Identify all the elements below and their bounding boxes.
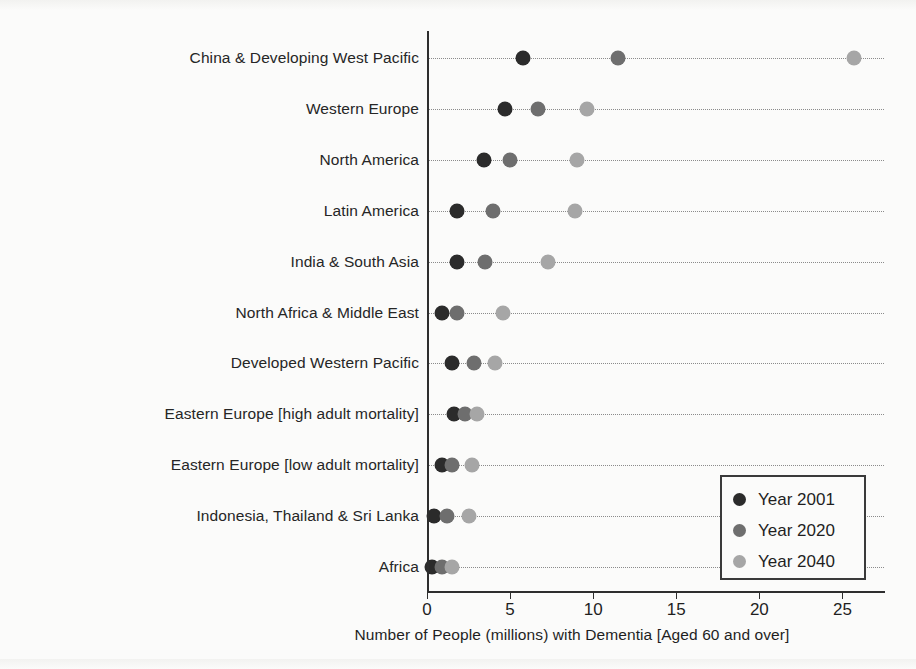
x-axis-tick-label: 20 [750,600,769,620]
x-axis-tick-label: 0 [422,600,431,620]
y-axis-tick-label: Africa [379,558,419,576]
data-point [496,305,511,320]
y-axis-tick-label: Developed Western Pacific [231,354,419,372]
data-point [449,203,464,218]
x-axis-title: Number of People (millions) with Dementi… [0,626,916,644]
data-point [464,457,479,472]
gridline [427,414,884,415]
gridline [427,109,884,110]
legend-item[interactable]: Year 2020 [722,515,864,546]
y-axis-tick-label: Eastern Europe [low adult mortality] [171,456,419,474]
data-point [461,508,476,523]
data-point [488,356,503,371]
data-point [434,305,449,320]
legend-label: Year 2040 [758,552,835,572]
legend-marker-icon [733,555,746,568]
y-axis-tick-label: Latin America [324,202,419,220]
data-point [449,254,464,269]
data-point [567,203,582,218]
data-point [444,457,459,472]
y-axis-tick-label: Indonesia, Thailand & Sri Lanka [196,507,419,525]
legend-marker-icon [733,493,746,506]
data-point [516,51,531,66]
data-point [579,102,594,117]
x-axis-tick [676,592,677,599]
x-axis-tick [593,592,594,599]
data-point [439,508,454,523]
y-axis-tick-label: China & Developing West Pacific [190,49,419,67]
y-axis-labels: China & Developing West PacificWestern E… [0,0,427,669]
y-axis-tick-label: Western Europe [306,100,419,118]
gridline [427,160,884,161]
x-axis-tick-label: 25 [833,600,852,620]
data-point [569,153,584,168]
y-axis-tick-label: India & South Asia [291,253,419,271]
y-axis-tick-label: North America [320,151,420,169]
gridline [427,465,884,466]
data-point [541,254,556,269]
data-point [503,153,518,168]
data-point [469,407,484,422]
y-axis-spine [427,31,429,593]
chart-figure: China & Developing West PacificWestern E… [0,0,916,669]
data-point [486,203,501,218]
legend: Year 2001Year 2020Year 2040 [720,475,866,580]
legend-item[interactable]: Year 2040 [722,546,864,577]
x-axis-tick [510,592,511,599]
data-point [611,51,626,66]
data-point [478,254,493,269]
x-axis-tick [759,592,760,599]
y-axis-tick-label: Eastern Europe [high adult mortality] [165,405,419,423]
x-axis-tick-label: 10 [584,600,603,620]
x-axis-tick [842,592,843,599]
legend-label: Year 2001 [758,490,835,510]
y-axis-tick-label: North Africa & Middle East [235,304,419,322]
x-axis-tick-label: 5 [505,600,514,620]
legend-label: Year 2020 [758,521,835,541]
legend-item[interactable]: Year 2001 [722,484,864,515]
x-axis-title-text: Number of People (millions) with Dementi… [354,626,789,644]
x-axis-tick-label: 15 [667,600,686,620]
data-point [444,559,459,574]
data-point [531,102,546,117]
data-point [476,153,491,168]
x-axis-tick [427,592,428,599]
gridline [427,58,884,59]
legend-marker-icon [733,524,746,537]
data-point [449,305,464,320]
data-point [444,356,459,371]
x-axis-spine [427,591,885,593]
gridline [427,262,884,263]
data-point [466,356,481,371]
data-point [498,102,513,117]
data-point [847,51,862,66]
